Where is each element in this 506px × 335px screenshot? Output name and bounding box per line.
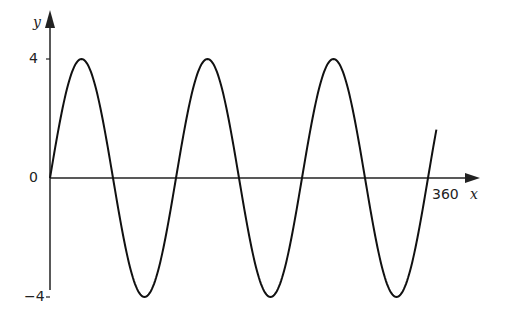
y-tick-0: 0 <box>29 169 38 185</box>
graph <box>0 0 506 335</box>
y-tick-4: 4 <box>29 50 38 66</box>
x-axis-label: x <box>470 186 478 202</box>
y-axis-arrow-icon <box>45 10 55 28</box>
x-tick-360: 360 <box>432 186 459 202</box>
y-axis-label: y <box>33 14 41 30</box>
y-tick-minus4: −4 <box>24 288 45 304</box>
